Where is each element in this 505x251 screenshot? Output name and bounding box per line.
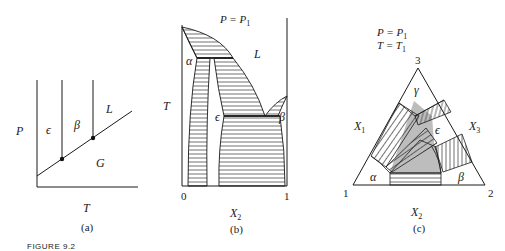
a-y-axis-label: P	[16, 125, 23, 137]
c-eps-beta-region	[435, 134, 472, 172]
b-x-axis-sub: 2	[237, 213, 241, 222]
b-x-axis-label: X2	[230, 207, 241, 222]
a-x-axis-label: T	[83, 202, 90, 214]
a-region-gas: G	[96, 157, 105, 169]
c-region-epsilon: ϵ	[435, 124, 440, 136]
b-y-axis-label: T	[163, 100, 170, 112]
panel-a-diagram	[37, 80, 138, 187]
a-triple-point-1	[60, 157, 64, 161]
b-condition-sub: 1	[246, 19, 250, 28]
c-alpha-beta-region	[390, 173, 441, 185]
b-x-tick-1: 1	[284, 191, 290, 202]
c-cond2-text: T = T	[377, 39, 402, 51]
c-cond2-sub: 1	[402, 45, 406, 54]
panel-b-diagram	[182, 18, 287, 186]
panel-c-diagram	[353, 68, 485, 185]
b-eps-L-region	[214, 58, 265, 116]
b-alpha-eps-region	[188, 58, 210, 186]
c-x1-sub: 1	[361, 126, 365, 135]
figure-caption: FIGURE 9.2	[27, 243, 76, 251]
b-x-tick-0: 0	[181, 191, 187, 202]
c-edge-label-x1: X1	[354, 120, 365, 135]
a-region-epsilon: ϵ	[46, 124, 51, 136]
a-region-liquid: L	[106, 103, 113, 115]
c-region-gamma: γ	[414, 84, 419, 96]
b-region-alpha: α	[186, 55, 192, 67]
c-vertex-3: 3	[415, 55, 421, 66]
b-condition-text: P = P	[220, 13, 246, 25]
a-panel-label: (a)	[81, 222, 93, 233]
c-region-alpha: α	[370, 171, 376, 183]
b-eps-beta-region	[219, 116, 285, 186]
a-region-beta: β	[74, 119, 80, 131]
b-condition: P = P1	[220, 14, 250, 28]
c-vertex-1: 1	[343, 188, 349, 199]
a-coexistence-line	[37, 111, 132, 176]
c-edge-label-x2: X2	[411, 206, 422, 221]
c-x2-sub: 2	[418, 212, 422, 221]
c-edge-label-x3: X3	[469, 120, 480, 135]
b-panel-label: (b)	[230, 224, 243, 235]
b-region-epsilon: ϵ	[215, 111, 220, 123]
c-cond1-text: P = P	[377, 26, 403, 38]
c-region-beta: β	[458, 171, 464, 183]
b-region-liquid: L	[254, 48, 261, 60]
b-region-beta: β	[279, 111, 285, 123]
c-condition-temperature: T = T1	[377, 40, 406, 54]
c-x3-sub: 3	[476, 126, 480, 135]
c-vertex-2: 2	[488, 188, 494, 199]
c-panel-label: (c)	[413, 223, 425, 234]
a-triple-point-2	[91, 136, 95, 140]
